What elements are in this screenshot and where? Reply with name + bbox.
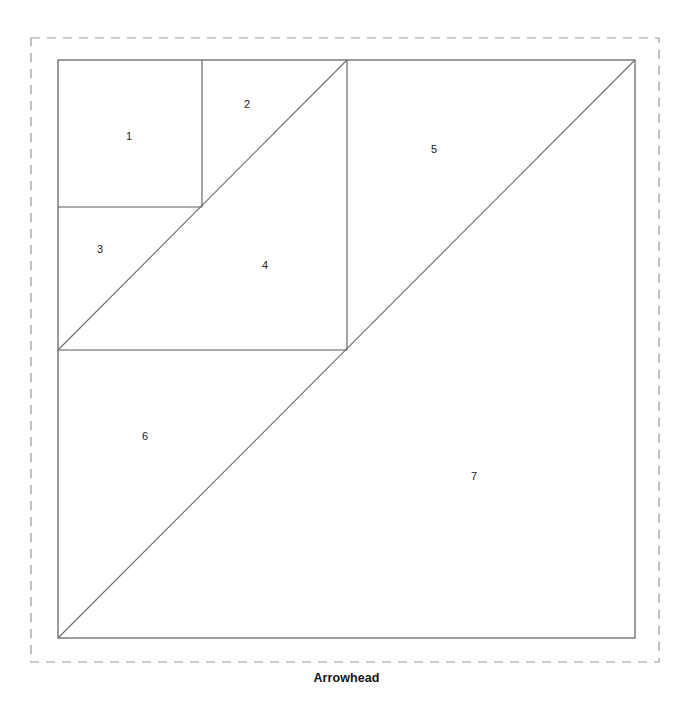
piece-label-1: 1 (126, 130, 132, 142)
piece-label-4: 4 (262, 259, 268, 271)
piece-label-6: 6 (142, 430, 148, 442)
piece-label-5: 5 (431, 143, 437, 155)
piece-label-7: 7 (471, 470, 477, 482)
figure-caption: Arrowhead (0, 671, 693, 685)
piece-label-2: 2 (244, 98, 250, 110)
arrowhead-diagram: 1 2 3 4 5 6 7 (0, 0, 693, 717)
piece-label-3: 3 (97, 243, 103, 255)
arrowhead-figure: 1 2 3 4 5 6 7 Arrowhead (0, 0, 693, 717)
